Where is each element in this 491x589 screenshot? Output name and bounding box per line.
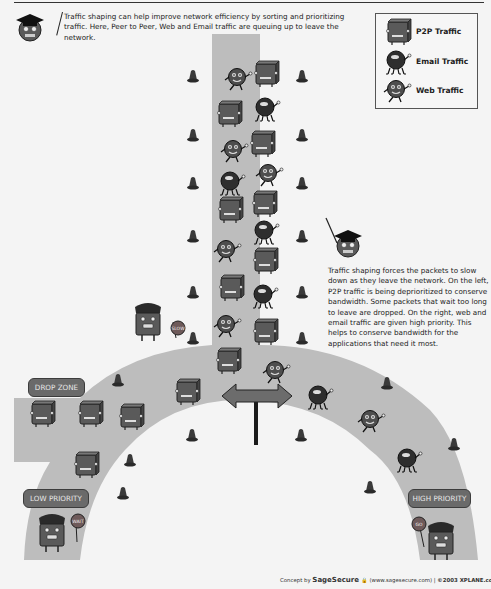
legend-item-p2p: P2P Traffic: [376, 18, 477, 46]
professor-top: [16, 14, 44, 41]
legend-item-email: Email Traffic: [376, 48, 477, 76]
svg-text:GO: GO: [415, 522, 422, 527]
p2p-box-icon: [382, 18, 416, 46]
svg-text:WAIT: WAIT: [72, 519, 84, 524]
legend: P2P Traffic Email Traffic Web Traffic: [375, 13, 478, 109]
email-ball-icon: [382, 48, 416, 76]
legend-item-web: Web Traffic: [376, 77, 477, 105]
footer-credit: Concept by SageSecure 🔒 (www.sagesecure.…: [280, 576, 491, 584]
drop-zone-label: DROP ZONE: [28, 378, 85, 397]
explanation-text: Traffic shaping forces the packets to sl…: [328, 266, 490, 349]
lock-icon: 🔒: [361, 577, 368, 583]
brand-logo: SageSecure: [312, 576, 359, 584]
slow-cop: SLOW: [135, 303, 185, 341]
low-priority-label: LOW PRIORITY: [23, 489, 89, 508]
web-ball-icon: [382, 77, 416, 105]
footer-url[interactable]: (www.sagesecure.com): [369, 577, 432, 583]
high-priority-label: HIGH PRIORITY: [408, 489, 471, 508]
professor-side: [326, 218, 362, 257]
direction-sign: [222, 384, 292, 445]
copyright: ©2003 XPLANE.com®: [437, 577, 491, 583]
intro-text: Traffic shaping can help improve network…: [64, 12, 364, 43]
svg-text:SLOW: SLOW: [171, 326, 185, 331]
